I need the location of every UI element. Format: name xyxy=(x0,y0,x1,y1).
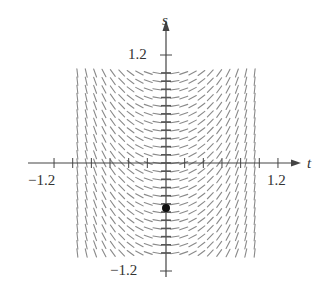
slope-segment xyxy=(119,201,125,207)
slope-segment xyxy=(127,226,134,231)
slope-segment xyxy=(207,225,213,231)
slope-segment xyxy=(171,121,179,122)
slope-segment xyxy=(235,77,238,85)
slope-segment xyxy=(85,241,87,249)
slope-segment xyxy=(226,176,230,183)
slope-segment xyxy=(171,89,179,90)
slope-segment xyxy=(153,80,161,81)
slope-segment xyxy=(94,143,97,151)
slope-segment xyxy=(217,119,222,126)
slope-segment xyxy=(254,134,255,142)
slope-segment xyxy=(127,169,134,174)
slope-segment xyxy=(245,175,247,183)
slope-segment xyxy=(144,113,152,116)
slope-segment xyxy=(119,225,125,231)
slope-segment xyxy=(144,243,152,246)
slope-segment xyxy=(144,203,152,206)
slope-segment xyxy=(102,192,106,199)
slope-segment xyxy=(127,70,134,75)
slope-segment xyxy=(153,121,161,122)
slope-segment xyxy=(217,94,222,101)
slope-segment xyxy=(235,69,238,77)
slope-segment xyxy=(85,102,87,110)
slope-segment xyxy=(189,112,196,116)
slope-segment xyxy=(136,251,143,255)
slope-field-diagram xyxy=(0,0,327,285)
slope-segment xyxy=(77,167,78,175)
slope-segment xyxy=(235,143,238,151)
slope-segment xyxy=(226,94,230,101)
slope-segment xyxy=(235,192,238,200)
slope-segment xyxy=(153,244,161,245)
slope-segment xyxy=(180,178,188,181)
slope-segment xyxy=(127,185,134,190)
slope-segment xyxy=(226,217,230,224)
slope-segment xyxy=(127,250,134,255)
slope-segment xyxy=(85,77,87,85)
slope-segment xyxy=(254,102,255,110)
slope-segment xyxy=(144,219,152,222)
slope-segment xyxy=(119,119,125,125)
slope-segment xyxy=(119,103,125,109)
slope-segment xyxy=(207,103,213,109)
slope-segment xyxy=(235,167,238,175)
slope-segment xyxy=(144,72,152,75)
slope-segment xyxy=(119,234,125,240)
slope-segment xyxy=(226,127,230,134)
slope-segment xyxy=(94,118,97,126)
slope-segment xyxy=(180,203,188,206)
slope-segment xyxy=(119,78,125,84)
slope-segment xyxy=(77,110,78,118)
slope-segment xyxy=(85,110,87,118)
slope-segment xyxy=(226,249,230,256)
slope-segment xyxy=(153,154,161,155)
slope-segment xyxy=(254,224,255,232)
slope-segment xyxy=(94,126,97,134)
slope-segment xyxy=(77,134,78,142)
slope-segment xyxy=(171,220,179,221)
slope-segment xyxy=(144,194,152,197)
slope-segment xyxy=(226,69,230,76)
slope-segment xyxy=(136,194,143,198)
slope-segment xyxy=(207,242,213,248)
slope-segment xyxy=(171,97,179,98)
slope-segment xyxy=(127,152,134,157)
slope-segment xyxy=(235,94,238,102)
slope-segment xyxy=(110,119,115,126)
slope-segment xyxy=(217,200,222,207)
slope-segment xyxy=(180,104,188,107)
slope-segment xyxy=(102,184,106,191)
slope-segment xyxy=(171,130,179,131)
slope-segment xyxy=(110,86,115,93)
slope-segment xyxy=(198,152,205,157)
slope-segment xyxy=(198,144,205,149)
slope-segment xyxy=(94,151,97,159)
t-min-label: −1.2 xyxy=(28,172,55,189)
slope-segment xyxy=(235,249,238,257)
slope-segment xyxy=(127,218,134,223)
slope-segment xyxy=(198,169,205,174)
slope-segment xyxy=(85,233,87,241)
slope-segment xyxy=(198,185,205,190)
slope-segment xyxy=(180,80,188,83)
slope-segment xyxy=(226,225,230,232)
slope-segment xyxy=(85,224,87,232)
slope-segment xyxy=(189,226,196,230)
slope-segment xyxy=(94,200,97,208)
slope-segment xyxy=(180,227,188,230)
slope-segment xyxy=(144,235,152,238)
slope-segment xyxy=(245,85,247,93)
slope-segment xyxy=(198,103,205,108)
slope-segment xyxy=(171,211,179,212)
slope-segment xyxy=(235,208,238,216)
slope-segment xyxy=(77,232,78,240)
slope-segment xyxy=(171,195,179,196)
slope-segment xyxy=(226,110,230,117)
slope-segment xyxy=(226,241,230,248)
slope-segment xyxy=(171,228,179,229)
slope-segment xyxy=(235,85,238,93)
slope-segment xyxy=(217,135,222,142)
slope-segment xyxy=(153,138,161,139)
slope-segment xyxy=(189,71,196,75)
slope-segment xyxy=(144,104,152,107)
